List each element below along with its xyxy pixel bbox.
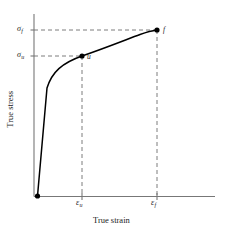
xtick-label-epsilon-u: εu xyxy=(76,199,82,207)
y-axis-title: True stress xyxy=(6,77,15,141)
ytick-subscript-sigma-u: u xyxy=(21,54,24,60)
xtick-label-epsilon-f: εf xyxy=(151,199,156,207)
x-axis-title: True strain xyxy=(93,216,130,225)
point-label-f: f xyxy=(163,26,165,34)
ytick-label-sigma-f: σf xyxy=(17,25,23,33)
true-stress-strain-figure: True stress True strain σf σu εu εf u f xyxy=(0,0,238,234)
stress-strain-curve xyxy=(38,30,158,196)
ytick-label-sigma-u: σu xyxy=(17,51,24,59)
point-label-u: u xyxy=(87,53,91,61)
marker-point-f xyxy=(154,27,159,32)
marker-point-u xyxy=(79,53,84,58)
plot-area xyxy=(0,0,238,234)
marker-origin xyxy=(35,193,40,198)
ytick-subscript-sigma-f: f xyxy=(21,28,23,34)
xtick-subscript-epsilon-f: f xyxy=(154,202,156,208)
